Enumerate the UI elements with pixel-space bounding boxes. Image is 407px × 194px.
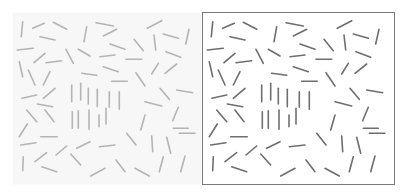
stimulus-panel-left <box>12 12 202 185</box>
line-segment <box>342 136 343 152</box>
texture-image-right <box>202 12 395 185</box>
texture-image-left <box>12 12 202 185</box>
line-segment <box>152 136 153 152</box>
line-segment <box>23 157 24 171</box>
line-segment <box>213 157 214 171</box>
stimulus-panel-right <box>202 12 395 185</box>
